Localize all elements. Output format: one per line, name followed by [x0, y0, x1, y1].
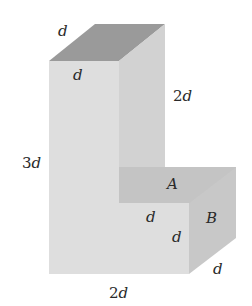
label-face-a: A	[165, 175, 178, 193]
label-total-height: 3d	[22, 154, 41, 172]
label-face-b: B	[205, 209, 217, 227]
label-top-width: d	[73, 66, 83, 84]
label-bottom-width: 2d	[109, 284, 128, 302]
label-step-width: d	[146, 208, 156, 226]
label-top-depth: d	[58, 22, 68, 40]
label-bottom-depth: d	[213, 260, 223, 278]
label-column-height: 2d	[173, 87, 192, 105]
l-shaped-solid-diagram: d d 2d 3d A B d d d 2d	[0, 0, 252, 306]
label-step-height: d	[172, 228, 182, 246]
